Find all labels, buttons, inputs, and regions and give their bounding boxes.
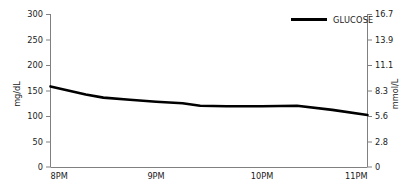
right-tick-label-13-9: 13.9 xyxy=(375,35,393,45)
right-tick-label-16-7: 16.7 xyxy=(375,9,393,19)
x-tick-label-10pm: 10PM xyxy=(251,171,273,181)
right-tick-label-0: 0 xyxy=(375,162,380,172)
left-axis-title: mg/dL xyxy=(12,81,22,107)
x-tick-label-8pm: 8PM xyxy=(51,171,68,181)
left-tick-label-0: 0 xyxy=(38,162,43,172)
x-tick-label-11pm: 11PM xyxy=(345,171,367,181)
left-tick-label-150: 150 xyxy=(27,86,43,96)
right-tick-label-8-3: 8.3 xyxy=(375,86,388,96)
right-tick-label-5-6: 5.6 xyxy=(375,111,388,121)
right-tick-label-11-1: 11.1 xyxy=(375,60,393,70)
right-tick-label-2-8: 2.8 xyxy=(375,137,388,147)
x-tick-label-9pm: 9PM xyxy=(147,171,164,181)
chart-background xyxy=(0,0,416,192)
left-tick-label-100: 100 xyxy=(27,111,43,121)
left-tick-label-50: 50 xyxy=(33,137,43,147)
left-tick-label-250: 250 xyxy=(27,35,43,45)
left-tick-label-300: 300 xyxy=(27,9,43,19)
legend-label-glucose: GLUCOSE xyxy=(333,15,373,25)
right-axis-title: mmol/L xyxy=(390,78,400,109)
chart-canvas: 300 250 200 150 100 50 0 mg/dL 16.7 13.9… xyxy=(0,0,416,192)
left-tick-label-200: 200 xyxy=(27,60,43,70)
glucose-chart: 300 250 200 150 100 50 0 mg/dL 16.7 13.9… xyxy=(0,0,416,192)
